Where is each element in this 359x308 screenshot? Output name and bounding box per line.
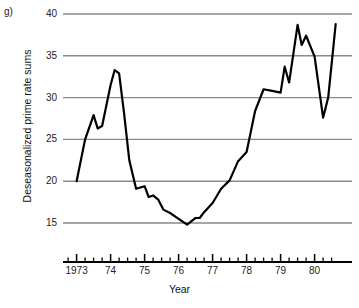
figure-panel: g) 152025303540 197374757677787980 Desea… xyxy=(0,0,359,308)
y-axis-tick-label: 20 xyxy=(31,176,57,186)
y-axis-tick-label: 30 xyxy=(31,93,57,103)
gridlines xyxy=(63,14,352,223)
chart-canvas xyxy=(0,0,359,308)
y-axis-tick-label: 40 xyxy=(31,9,57,19)
y-axis-tick-label: 25 xyxy=(31,134,57,144)
data-series-line xyxy=(77,24,336,225)
x-axis xyxy=(63,254,352,262)
x-axis-title: Year xyxy=(0,283,359,295)
chart-plot-area: 152025303540 197374757677787980 Deseason… xyxy=(0,0,359,308)
y-axis-tick-label: 15 xyxy=(31,218,57,228)
y-axis-title: Deseasonalized prime rate sums xyxy=(21,31,33,221)
series-polyline xyxy=(77,24,336,225)
y-axis-tick-label: 35 xyxy=(31,51,57,61)
x-axis-tick-label: 80 xyxy=(295,266,335,276)
